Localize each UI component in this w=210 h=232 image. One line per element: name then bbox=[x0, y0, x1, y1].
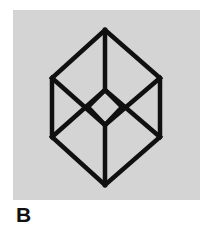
figure-caption-label: B bbox=[16, 204, 31, 226]
inner-diamond-shape bbox=[88, 90, 122, 125]
figure-line-drawing bbox=[0, 0, 210, 232]
